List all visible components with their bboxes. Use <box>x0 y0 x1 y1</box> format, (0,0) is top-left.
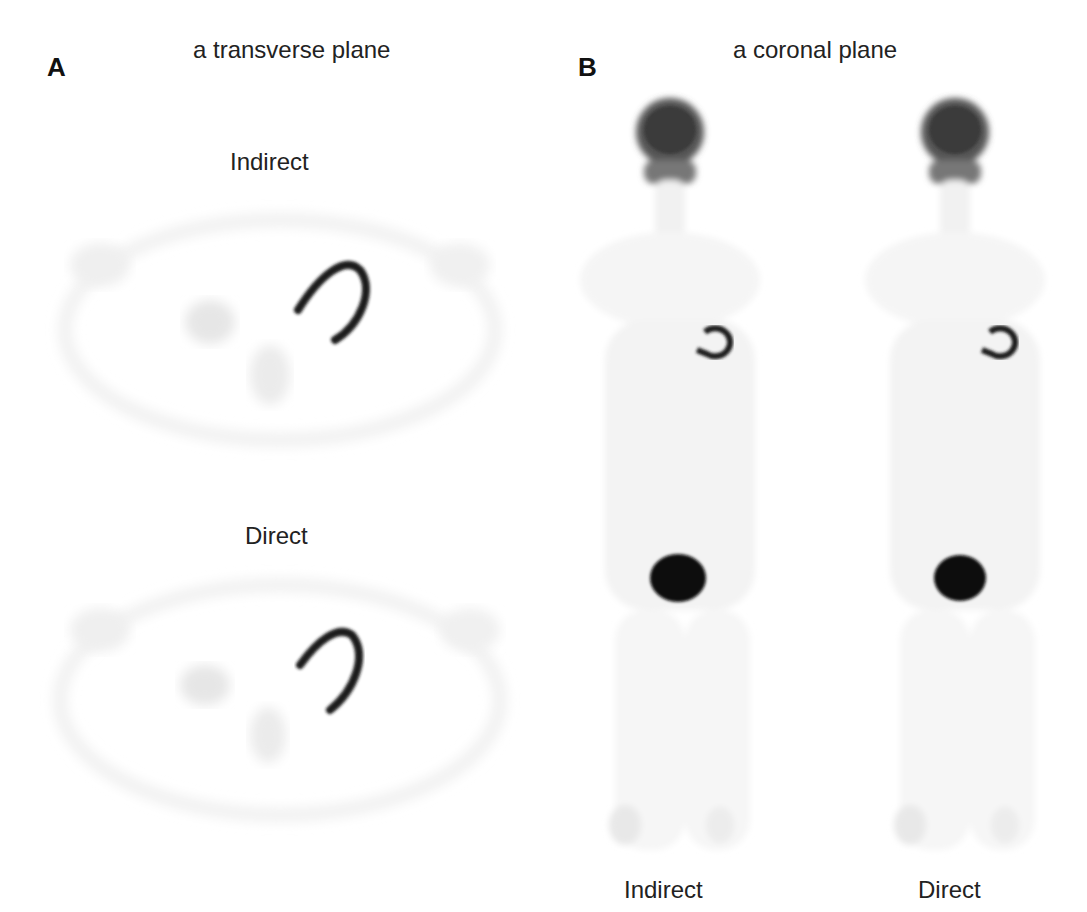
panel-b-indirect-label: Indirect <box>624 876 703 904</box>
panel-b-title: a coronal plane <box>733 36 897 64</box>
panel-a-title: a transverse plane <box>193 36 390 64</box>
panel-b-letter: B <box>578 52 597 83</box>
panel-b-direct-label: Direct <box>918 876 981 904</box>
panel-a-letter: A <box>47 52 66 83</box>
transverse-direct-scan <box>30 570 530 830</box>
panel-a-direct-label: Direct <box>245 522 308 550</box>
transverse-indirect-scan <box>30 200 530 460</box>
panel-a-indirect-label: Indirect <box>230 148 309 176</box>
coronal-direct-scan <box>845 80 1085 840</box>
coronal-indirect-scan <box>560 80 800 840</box>
